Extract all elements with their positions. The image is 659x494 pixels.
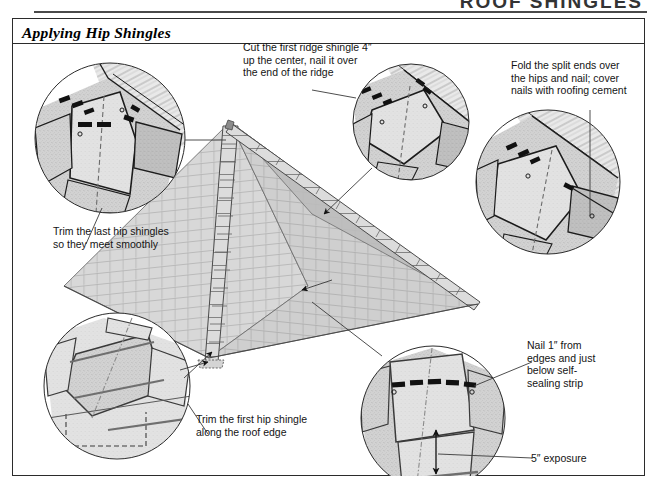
figure-title: Applying Hip Shingles: [22, 24, 171, 42]
caption-trim-first-hip-shingle: Trim the first hip shingle along the roo…: [196, 413, 366, 438]
figure-page: ROOF SHINGLES Applying Hip Shingles: [0, 0, 659, 494]
caption-trim-last-hip-shingles: Trim the last hip shingles so they meet …: [53, 225, 223, 250]
caption-five-inch-exposure: 5″ exposure: [531, 452, 631, 465]
caption-fold-split-ends: Fold the split ends over the hips and na…: [511, 59, 659, 97]
header-rule: [34, 11, 647, 13]
caption-cut-first-ridge-shingle: Cut the first ridge shingle 4″ up the ce…: [243, 41, 423, 79]
caption-nail-one-inch-from-edges: Nail 1″ from edges and just below self- …: [527, 339, 619, 389]
